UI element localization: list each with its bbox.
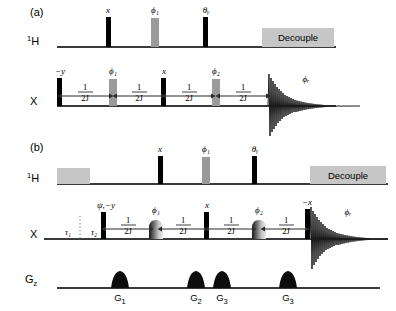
panel-a-pulse-x-x-label: x xyxy=(161,66,166,76)
panel-b-pulse-h-x-label: x xyxy=(157,144,162,154)
panel-a-delay-4-numerator: 1 xyxy=(241,82,245,92)
panel-a-channel-x: X −y ϕ₁ x ϕ₂ 1 2J 1 2J xyxy=(30,66,360,136)
panel-a-pulse-x-minus-y xyxy=(57,78,62,106)
panel-a-delay-2-numerator: 1 xyxy=(137,82,141,92)
panel-a-delay-3-denominator: 2J xyxy=(185,93,193,103)
panel-a-delay-2: 1 2J xyxy=(117,82,161,103)
panel-a-delay-1-denominator: 2J xyxy=(81,93,89,103)
panel-a-1h-label: 1H xyxy=(27,34,39,47)
panel-a-channel-1h: 1H x ϕ₁ θᵧ Decouple xyxy=(27,5,336,47)
panel-b-delay-3: 1 2J xyxy=(209,215,252,236)
panel-b-tau-2-label: τ₂ xyxy=(91,227,97,237)
panel-b-delay-1-numerator: 1 xyxy=(126,215,130,225)
pulse-sequence-figure: (a) 1H x ϕ₁ θᵧ Decouple X −y ϕ₁ xyxy=(0,0,396,311)
panel-a-decouple-label: Decouple xyxy=(278,32,318,43)
panel-b-pulse-x-phi1-label: ϕ₁ xyxy=(152,205,160,215)
panel-b-channel-x: X τ₁ τ₂ ψ,−y ϕ₁ x ϕ₂ −x 1 2J xyxy=(30,197,388,269)
panel-b-pulse-h-theta-y xyxy=(252,156,257,184)
panel-b-fid-phase-label: ϕᵣ xyxy=(345,207,352,217)
panel-a-x-label: X xyxy=(30,95,38,107)
panel-b-pulse-h-phi1 xyxy=(202,157,210,184)
panel-b-delay-2-numerator: 1 xyxy=(181,215,185,225)
panel-b-gradient-g3b-shape xyxy=(279,271,297,288)
panel-b-presat-block xyxy=(57,168,90,184)
panel-b-pulse-h-x xyxy=(158,156,163,184)
panel-a-pulse-h-phi1-label: ϕ₁ xyxy=(151,5,159,15)
panel-a-pulse-x-phi1-label: ϕ₁ xyxy=(109,66,117,76)
panel-b: (b) 1H x ϕ₁ θᵧ Decouple X τ₁ τ₂ xyxy=(25,141,388,306)
panel-a: (a) 1H x ϕ₁ θᵧ Decouple X −y ϕ₁ xyxy=(27,5,360,136)
panel-b-gradient-g3b-label: G3 xyxy=(282,292,294,306)
panel-b-delay-4-numerator: 1 xyxy=(284,215,288,225)
panel-b-pulse-x-phi2-label: ϕ₂ xyxy=(255,205,263,215)
panel-b-pulse-h-phi1-label: ϕ₁ xyxy=(202,144,210,154)
panel-b-gradient-g2-shape xyxy=(187,271,205,288)
panel-b-pulse-x-phi1 xyxy=(149,220,163,239)
panel-a-pulse-x-phi2 xyxy=(212,79,220,106)
panel-b-gradient-g3a-label: G3 xyxy=(216,292,228,306)
panel-b-x-label: X xyxy=(30,228,38,240)
panel-b-decouple-label: Decouple xyxy=(328,170,368,181)
panel-b-pulse-x-phi2 xyxy=(252,220,266,239)
panel-b-gradient-g1-label: G1 xyxy=(114,292,126,306)
panel-b-gradient-g3a-shape xyxy=(213,271,231,288)
panel-b-delay-4-denominator: 2J xyxy=(282,226,290,236)
panel-a-pulse-h-phi1 xyxy=(151,18,159,47)
panel-a-delay-2-denominator: 2J xyxy=(135,93,143,103)
panel-b-pulse-x-x xyxy=(204,212,209,239)
panel-b-gradient-g1-shape xyxy=(111,271,129,288)
panel-b-delay-3-numerator: 1 xyxy=(229,215,233,225)
panel-a-delay-4: 1 2J xyxy=(220,82,266,103)
panel-b-delay-2-denominator: 2J xyxy=(179,226,187,236)
panel-b-delay-4: 1 2J xyxy=(265,215,305,236)
panel-b-pulse-x-x-label: x xyxy=(204,200,209,210)
panel-b-pulse-x-minus-x xyxy=(305,209,310,239)
panel-b-tau-1-label: τ₁ xyxy=(65,227,71,237)
panel-a-delay-3-numerator: 1 xyxy=(187,82,191,92)
panel-b-pulse-x-psi-minus-y xyxy=(101,212,106,239)
panel-a-fid-phase-label: ϕᵣ xyxy=(303,74,310,84)
panel-b-label: (b) xyxy=(30,141,43,153)
panel-a-label: (a) xyxy=(30,6,43,18)
panel-a-pulse-h-x-label: x xyxy=(105,5,110,15)
panel-a-pulse-h-x xyxy=(106,17,111,47)
panel-b-delay-3-denominator: 2J xyxy=(227,226,235,236)
panel-b-pulse-x-minus-x-label: −x xyxy=(302,197,312,207)
panel-a-pulse-x-phi1 xyxy=(109,79,117,106)
panel-b-delay-2: 1 2J xyxy=(162,215,204,236)
panel-b-gradient-g2-label: G2 xyxy=(190,292,202,306)
panel-b-channel-1h: 1H x ϕ₁ θᵧ Decouple xyxy=(27,144,388,184)
panel-b-delay-1-denominator: 2J xyxy=(124,226,132,236)
panel-b-pulse-x-psi-minus-y-label: ψ,−y xyxy=(97,200,115,210)
panel-a-delay-3: 1 2J xyxy=(166,82,211,103)
panel-a-pulse-x-phi2-label: ϕ₂ xyxy=(212,66,220,76)
panel-a-pulse-x-x xyxy=(161,78,166,106)
panel-b-channel-gz: Gz G1 G2 G3 xyxy=(25,271,380,306)
panel-a-pulse-h-theta-y xyxy=(203,17,208,47)
pulse-sequence-svg: (a) 1H x ϕ₁ θᵧ Decouple X −y ϕ₁ xyxy=(0,0,396,311)
panel-b-1h-label: 1H xyxy=(27,171,39,184)
panel-a-delay-1: 1 2J xyxy=(62,82,109,103)
panel-a-pulse-h-theta-y-label: θᵧ xyxy=(203,5,210,15)
panel-b-pulse-h-theta-y-label: θᵧ xyxy=(252,144,259,154)
panel-b-delay-1: 1 2J xyxy=(106,215,149,236)
panel-a-pulse-x-minus-y-label: −y xyxy=(55,66,65,76)
panel-a-delay-4-denominator: 2J xyxy=(239,93,247,103)
panel-a-delay-1-numerator: 1 xyxy=(83,82,87,92)
panel-b-gz-label: Gz xyxy=(25,273,38,288)
